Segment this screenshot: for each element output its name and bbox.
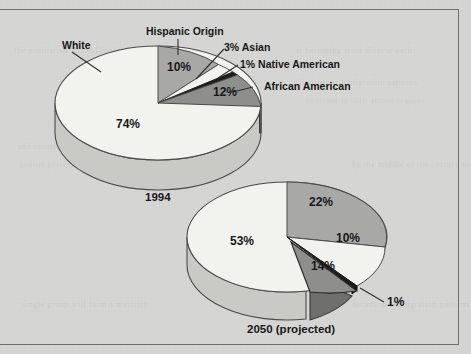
pie1-label-native-american: 1% Native American <box>240 59 340 70</box>
pie1-label-african-american: African American <box>264 81 351 92</box>
pie1-label-hispanic-origin: Hispanic Origin <box>146 26 224 37</box>
pie1-label-white: White <box>62 40 91 51</box>
pie-chart-1994 <box>55 39 261 190</box>
pie2-caption-2050: 2050 (projected) <box>247 324 335 336</box>
pie2-value-native-american: 1% <box>387 296 404 308</box>
pie1-value-white: 74% <box>116 118 140 130</box>
pie2-value-hispanic-origin: 22% <box>309 196 333 208</box>
pie2-value-african-american: 14% <box>311 260 335 272</box>
pie1-caption-1994: 1994 <box>145 192 171 204</box>
pie1-value-african-american: 12% <box>213 86 237 98</box>
pie2-value-white: 53% <box>230 235 254 247</box>
pie2-leader-native-american <box>360 288 384 302</box>
pie1-label-asian: 3% Asian <box>224 42 270 53</box>
pie1-value-hispanic-origin: 10% <box>167 61 191 73</box>
pie-chart-2050 <box>187 182 387 320</box>
pie2-value-asian: 10% <box>336 232 360 244</box>
figure-page: the population of the United States is b… <box>0 0 471 354</box>
